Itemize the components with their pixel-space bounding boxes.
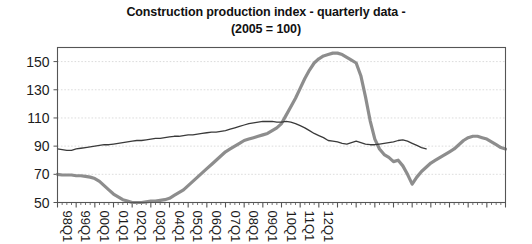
x-tick-label-04Q1: 04Q1 (172, 211, 187, 243)
x-tick-label-02Q1: 02Q1 (134, 211, 149, 243)
x-tick-label-10Q1: 10Q1 (284, 211, 299, 243)
chart-figure: Construction production index - quarterl… (0, 0, 532, 244)
y-tick-label-50: 50 (34, 195, 50, 211)
x-tick-label-99Q1: 99Q1 (78, 211, 93, 243)
x-tick-label-98Q1: 98Q1 (60, 211, 75, 243)
y-axis-ticks-group (54, 62, 58, 203)
x-tick-label-00Q1: 00Q1 (97, 211, 112, 243)
x-tick-label-06Q1: 06Q1 (209, 211, 224, 243)
y-tick-label-130: 130 (26, 82, 50, 98)
y-tick-label-150: 150 (26, 54, 50, 70)
x-axis-labels-group: 98Q199Q100Q101Q102Q103Q104Q105Q106Q107Q1… (60, 211, 336, 243)
x-tick-label-01Q1: 01Q1 (116, 211, 131, 243)
x-axis-ticks-group (58, 203, 506, 208)
data-series-group (58, 53, 506, 202)
x-tick-label-08Q1: 08Q1 (246, 211, 261, 243)
y-tick-label-90: 90 (34, 138, 50, 154)
x-tick-label-07Q1: 07Q1 (228, 211, 243, 243)
x-tick-label-11Q1: 11Q1 (302, 211, 317, 242)
x-tick-label-05Q1: 05Q1 (190, 211, 205, 243)
series-line-thick-gray-series (58, 53, 506, 202)
chart-plot-area: 507090110130150 98Q199Q100Q101Q102Q103Q1… (0, 0, 532, 244)
x-tick-label-09Q1: 09Q1 (265, 211, 280, 243)
y-tick-label-110: 110 (27, 110, 50, 126)
x-tick-label-12Q1: 12Q1 (321, 211, 336, 243)
y-tick-label-70: 70 (34, 166, 50, 182)
y-axis-labels-group: 507090110130150 (26, 54, 50, 211)
x-tick-label-03Q1: 03Q1 (153, 211, 168, 243)
